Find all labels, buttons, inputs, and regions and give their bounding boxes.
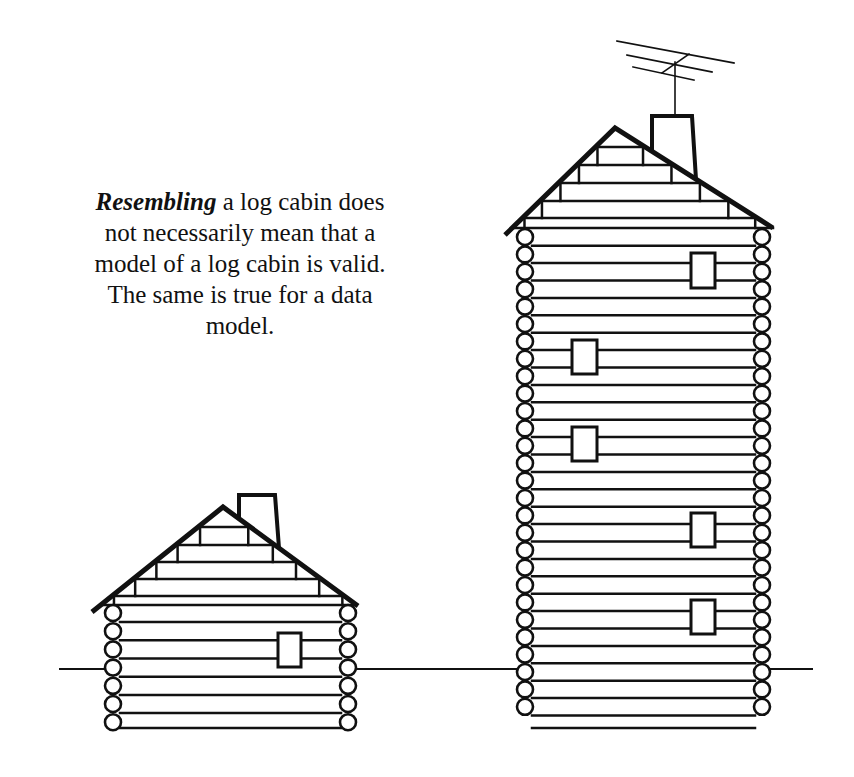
- log-end-circle: [105, 714, 121, 730]
- log-end-circle: [517, 507, 533, 523]
- window: [572, 427, 597, 461]
- log-end-circle: [105, 641, 121, 657]
- log-end-circle: [517, 368, 533, 384]
- log-end-circle: [754, 299, 770, 315]
- log-end-circle: [754, 246, 770, 262]
- log-end-circle: [754, 351, 770, 367]
- log-end-circle: [517, 403, 533, 419]
- log-end-circle: [105, 605, 121, 621]
- log-end-circle: [517, 351, 533, 367]
- log-end-circle: [517, 577, 533, 593]
- log-end-circle: [340, 641, 356, 657]
- log-end-circle: [754, 647, 770, 663]
- log-end-circle: [105, 623, 121, 639]
- chimney: [652, 116, 696, 179]
- log-end-circle: [517, 333, 533, 349]
- cabin-backdrop: [517, 228, 770, 730]
- cabin-backdrop: [105, 605, 356, 730]
- log-end-circle: [754, 507, 770, 523]
- log-end-circle: [754, 542, 770, 558]
- log-end-circle: [754, 699, 770, 715]
- log-end-circle: [754, 594, 770, 610]
- log-end-circle: [754, 577, 770, 593]
- window: [691, 513, 715, 547]
- antenna-element: [617, 41, 734, 63]
- log-end-circle: [754, 455, 770, 471]
- window: [278, 633, 301, 667]
- log-end-circle: [754, 403, 770, 419]
- log-end-circle: [754, 333, 770, 349]
- log-cabin-illustration: [0, 0, 854, 777]
- log-end-circle: [754, 473, 770, 489]
- log-end-circle: [517, 299, 533, 315]
- log-end-circle: [517, 594, 533, 610]
- log-end-circle: [754, 681, 770, 697]
- tall-log-cabin: [505, 41, 773, 730]
- window: [572, 340, 597, 374]
- log-end-circle: [517, 386, 533, 402]
- log-end-circle: [517, 542, 533, 558]
- log-end-circle: [754, 438, 770, 454]
- log-end-circle: [754, 281, 770, 297]
- log-end-circle: [517, 647, 533, 663]
- log-end-circle: [517, 612, 533, 628]
- log-end-circle: [754, 612, 770, 628]
- log-end-circle: [517, 264, 533, 280]
- log-end-circle: [754, 525, 770, 541]
- log-end-circle: [517, 420, 533, 436]
- log-end-circle: [754, 229, 770, 245]
- log-end-circle: [517, 438, 533, 454]
- antenna-element: [627, 55, 712, 72]
- window: [691, 253, 715, 288]
- log-end-circle: [340, 714, 356, 730]
- log-end-circle: [517, 316, 533, 332]
- log-end-circle: [340, 696, 356, 712]
- log-end-circle: [517, 246, 533, 262]
- log-end-circle: [517, 629, 533, 645]
- log-end-circle: [105, 660, 121, 676]
- log-end-circle: [517, 699, 533, 715]
- log-end-circle: [340, 678, 356, 694]
- log-end-circle: [754, 664, 770, 680]
- log-end-circle: [340, 605, 356, 621]
- log-end-circle: [517, 473, 533, 489]
- antenna-element: [633, 67, 694, 80]
- window: [691, 600, 715, 634]
- log-end-circle: [517, 229, 533, 245]
- log-end-circle: [517, 281, 533, 297]
- log-end-circle: [105, 678, 121, 694]
- log-end-circle: [517, 664, 533, 680]
- log-end-circle: [754, 560, 770, 576]
- log-end-circle: [754, 386, 770, 402]
- tv-antenna: [617, 41, 734, 116]
- log-end-circle: [517, 681, 533, 697]
- log-end-circle: [754, 490, 770, 506]
- log-end-circle: [517, 455, 533, 471]
- log-end-circle: [105, 696, 121, 712]
- log-end-circle: [754, 420, 770, 436]
- small-log-cabin: [92, 495, 358, 730]
- log-end-circle: [517, 490, 533, 506]
- log-end-circle: [754, 368, 770, 384]
- log-end-circle: [754, 264, 770, 280]
- log-end-circle: [517, 560, 533, 576]
- log-end-circle: [340, 623, 356, 639]
- log-end-circle: [754, 316, 770, 332]
- log-end-circle: [340, 660, 356, 676]
- log-end-circle: [517, 525, 533, 541]
- log-end-circle: [754, 629, 770, 645]
